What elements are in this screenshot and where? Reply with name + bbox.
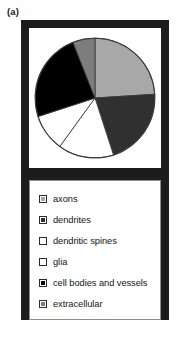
legend-item-glia: glia: [39, 251, 154, 272]
legend-label-glia: glia: [53, 257, 67, 267]
figure-panel: (a) axons dendrites dendritic: [0, 0, 180, 341]
legend-item-cell-bodies-and-vessels: cell bodies and vessels: [39, 272, 154, 293]
pie-chart: [32, 35, 158, 161]
legend-swatch-dendrites: [39, 216, 47, 224]
legend-label-cell-bodies-and-vessels: cell bodies and vessels: [53, 278, 147, 288]
legend-item-extracellular: extracellular: [39, 293, 154, 314]
legend-item-axons: axons: [39, 188, 154, 209]
legend-swatch-dendritic-spines: [39, 237, 47, 245]
legend-swatch-glia: [39, 258, 47, 266]
panel-divider-gap: [29, 168, 161, 180]
legend-label-dendrites: dendrites: [53, 215, 91, 225]
legend-box: axons dendrites dendritic spines glia ce…: [29, 180, 161, 320]
panel-label: (a): [7, 6, 19, 17]
pie-slice-group: [35, 38, 155, 158]
legend-swatch-cell-bodies-and-vessels: [39, 279, 47, 287]
legend-label-dendritic-spines: dendritic spines: [53, 236, 117, 246]
legend-swatch-axons: [39, 195, 47, 203]
legend-label-extracellular: extracellular: [53, 299, 102, 309]
legend-item-dendritic-spines: dendritic spines: [39, 230, 154, 251]
legend-item-dendrites: dendrites: [39, 209, 154, 230]
legend-label-axons: axons: [53, 194, 78, 204]
legend-swatch-extracellular: [39, 300, 47, 308]
pie-chart-svg: [32, 35, 158, 161]
pie-slice-axons: [95, 38, 155, 98]
pie-chart-panel: [29, 28, 161, 168]
figure-frame: axons dendrites dendritic spines glia ce…: [21, 20, 169, 320]
